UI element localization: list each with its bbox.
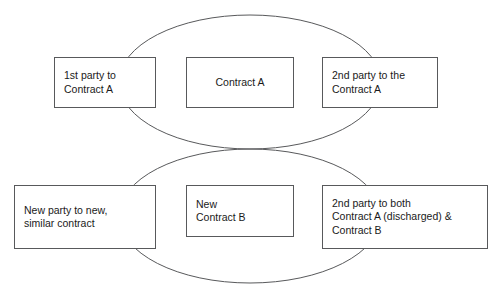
box-new-contract-b-label: New Contract B bbox=[187, 198, 293, 225]
box-first-party-label: 1st party to Contract A bbox=[55, 69, 155, 96]
ellipse-layer bbox=[0, 0, 501, 293]
box-second-party-to-contract-a: 2nd party to the Contract A bbox=[322, 57, 438, 108]
box-first-party-to-contract-a: 1st party to Contract A bbox=[54, 57, 156, 108]
box-second-party-both-label: 2nd party to both Contract A (discharged… bbox=[323, 197, 487, 238]
box-second-party-to-both-contracts: 2nd party to both Contract A (discharged… bbox=[322, 185, 488, 249]
box-second-party-label: 2nd party to the Contract A bbox=[323, 69, 437, 96]
box-new-party-to-new-contract: New party to new, similar contract bbox=[14, 185, 156, 249]
novation-diagram: 1st party to Contract A Contract A 2nd p… bbox=[0, 0, 501, 293]
box-new-party-label: New party to new, similar contract bbox=[15, 204, 155, 231]
box-contract-a: Contract A bbox=[186, 57, 294, 108]
box-contract-a-label: Contract A bbox=[187, 76, 293, 90]
box-new-contract-b: New Contract B bbox=[186, 185, 294, 237]
